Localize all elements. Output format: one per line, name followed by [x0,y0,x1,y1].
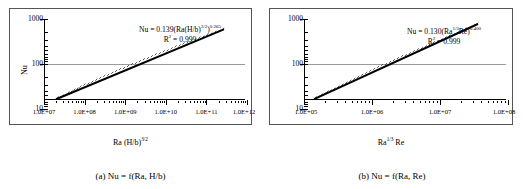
plot-frame-b: 1000 100 10 [269,8,513,125]
plot-frame-a: 1000 100 10 Nu [9,8,252,125]
fit-line-a [57,30,224,99]
caption-b: (b) Nu = f(Ra, Re) [261,171,523,181]
chart-panel-a: 1000 100 10 Nu [0,0,261,189]
data-plot-b [270,9,512,124]
data-plot-a [10,9,251,124]
x-axis-title-a: Ra (H/b)3/2 [9,138,252,147]
x-axis-title-b: Ra1/3 Re [269,138,513,147]
figure-container: 1000 100 10 Nu [0,0,523,189]
chart-panel-b: 1000 100 10 [261,0,523,189]
fit-line-b [315,24,478,99]
caption-a: (a) Nu = f(Ra, H/b) [0,171,261,181]
